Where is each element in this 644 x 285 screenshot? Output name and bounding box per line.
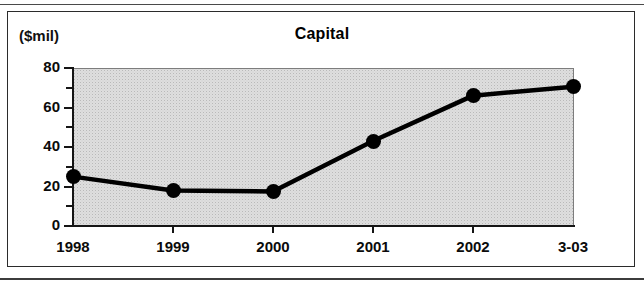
page-scan-line-top [0,4,644,5]
y-axis-label-60: 60 [14,98,60,115]
y-tick-major-60 [64,107,73,109]
x-axis-label-3-03: 3-03 [533,238,613,255]
y-tick-minor-30 [66,166,73,168]
y-axis-label-0: 0 [14,216,60,233]
y-axis-label-40: 40 [14,137,60,154]
y-tick-minor-10 [66,205,73,207]
page-scan-line-bottom [0,278,644,280]
x-tick-2001 [372,226,374,233]
y-tick-major-40 [64,146,73,148]
y-tick-minor-50 [66,126,73,128]
y-tick-major-20 [64,186,73,188]
x-axis-label-2000: 2000 [233,238,313,255]
y-tick-minor-70 [66,87,73,89]
x-axis-label-1998: 1998 [33,238,113,255]
x-axis-label-1999: 1999 [133,238,213,255]
x-tick-2002 [472,226,474,233]
x-tick-2000 [272,226,274,233]
chart-title: Capital [0,25,644,43]
x-axis-label-2001: 2001 [333,238,413,255]
y-axis-label-20: 20 [14,177,60,194]
chart-figure: ($mil) Capital 0204060801998199920002001… [0,0,644,285]
plot-area [73,68,574,227]
y-axis-label-80: 80 [14,58,60,75]
y-tick-major-0 [64,225,73,227]
x-tick-1999 [172,226,174,233]
y-tick-major-80 [64,67,73,69]
x-axis-label-2002: 2002 [433,238,513,255]
x-axis-line [72,225,575,227]
